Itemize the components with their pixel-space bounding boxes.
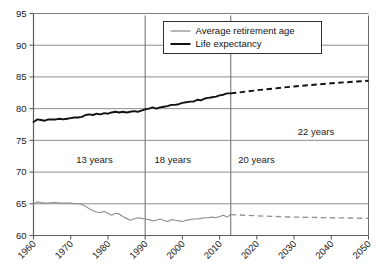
series-retirement-age-projection	[231, 215, 369, 219]
annotation-20-years: 20 years	[238, 154, 275, 165]
annotation-22-years: 22 years	[298, 126, 335, 137]
legend-label-2: Life expectancy	[196, 38, 262, 49]
y-tick-label-90: 90	[16, 40, 27, 51]
x-tick-label-2020: 2020	[239, 238, 262, 261]
legend-label-1: Average retirement age	[196, 25, 295, 36]
x-tick-label-2010: 2010	[201, 238, 224, 261]
y-tick-label-60: 60	[16, 230, 27, 241]
x-axis-ticks: 1960197019801990200020102020203020402050	[15, 236, 373, 261]
y-tick-label-75: 75	[16, 135, 27, 146]
x-tick-label-1980: 1980	[90, 238, 113, 261]
y-axis-ticks: 6065707580859095	[16, 8, 34, 241]
retirement-life-expectancy-chart: 6065707580859095 19601970198019902000201…	[0, 0, 376, 271]
x-tick-label-1960: 1960	[15, 238, 38, 261]
series-retirement-age	[34, 202, 231, 222]
chart-legend: Average retirement ageLife expectancy	[164, 22, 322, 54]
y-tick-label-95: 95	[16, 8, 27, 19]
data-series	[34, 81, 369, 222]
series-life-expectancy-projection	[231, 81, 369, 94]
y-tick-label-70: 70	[16, 166, 27, 177]
chart-annotations: 13 years18 years20 years22 years	[76, 126, 334, 166]
series-life-expectancy	[34, 93, 231, 122]
x-tick-label-1970: 1970	[52, 238, 75, 261]
x-tick-label-2050: 2050	[350, 238, 373, 261]
y-tick-label-65: 65	[16, 198, 27, 209]
x-tick-label-2030: 2030	[276, 238, 299, 261]
annotation-13-years: 13 years	[76, 154, 113, 165]
x-tick-label-2040: 2040	[313, 238, 336, 261]
y-tick-label-85: 85	[16, 71, 27, 82]
x-tick-label-2000: 2000	[164, 238, 187, 261]
annotation-18-years: 18 years	[154, 154, 191, 165]
y-tick-label-80: 80	[16, 103, 27, 114]
chart-canvas: 6065707580859095 19601970198019902000201…	[0, 0, 376, 271]
x-tick-label-1990: 1990	[127, 238, 150, 261]
